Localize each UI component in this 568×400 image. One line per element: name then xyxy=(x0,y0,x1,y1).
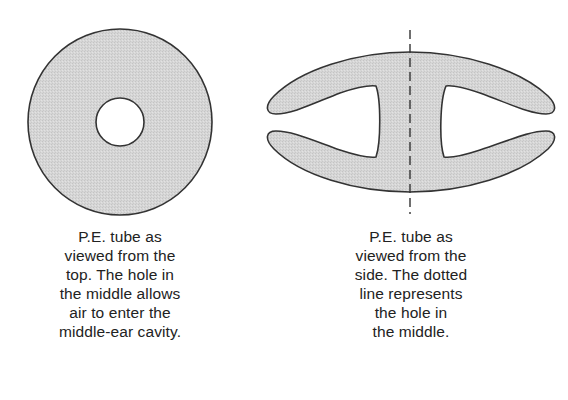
caption-line: middle-ear cavity. xyxy=(20,322,220,341)
side-view-illustration xyxy=(267,30,554,214)
caption-line: viewed from the xyxy=(311,246,511,265)
caption-line: viewed from the xyxy=(20,246,220,265)
caption-line: top. The hole in xyxy=(20,265,220,284)
top-view-caption: P.E. tube as viewed from the top. The ho… xyxy=(20,227,220,341)
caption-line: side. The dotted xyxy=(311,265,511,284)
caption-line: line represents xyxy=(311,284,511,303)
caption-line: P.E. tube as xyxy=(20,227,220,246)
side-view-caption: P.E. tube as viewed from the side. The d… xyxy=(311,227,511,341)
caption-line: the middle allows xyxy=(20,284,220,303)
caption-line: air to enter the xyxy=(20,303,220,322)
top-view-illustration xyxy=(28,29,212,215)
tube-disc-shape xyxy=(28,29,212,215)
caption-line: P.E. tube as xyxy=(311,227,511,246)
caption-line: the hole in xyxy=(311,303,511,322)
caption-line: the middle. xyxy=(311,322,511,341)
tube-side-shape xyxy=(267,52,554,192)
